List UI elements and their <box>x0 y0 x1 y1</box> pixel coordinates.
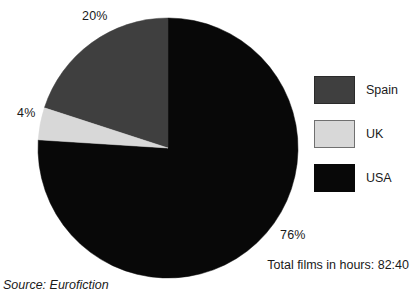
legend-swatch-uk-icon <box>314 120 355 148</box>
total-films-note: Total films in hours: 82:40 <box>267 258 409 272</box>
legend-swatch-spain-icon <box>314 76 355 104</box>
legend-item-spain[interactable]: Spain <box>314 76 414 120</box>
legend-label-usa: USA <box>366 171 392 185</box>
legend-label-spain: Spain <box>366 83 398 97</box>
pie-label-spain-percent: 20% <box>82 9 108 23</box>
legend-item-usa[interactable]: USA <box>314 164 414 208</box>
legend-item-uk[interactable]: UK <box>314 120 414 164</box>
pie-chart-figure: 20% 4% 76% Spain UK USA Total films in h… <box>0 0 417 299</box>
pie-label-usa-percent: 76% <box>280 228 306 242</box>
legend-label-uk: UK <box>366 127 383 141</box>
pie-label-uk-percent: 4% <box>17 106 35 120</box>
source-note: Source: Eurofiction <box>3 278 109 292</box>
legend: Spain UK USA <box>314 76 414 208</box>
legend-swatch-usa-icon <box>314 164 355 192</box>
